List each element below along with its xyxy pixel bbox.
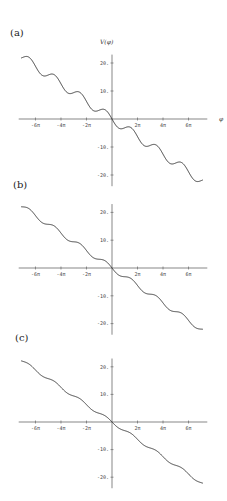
x-tick-label: -2π: [82, 425, 91, 431]
x-tick-label: 6π: [186, 122, 192, 128]
y-tick-label: 10.: [100, 88, 109, 94]
y-tick-label: -20.: [97, 320, 109, 326]
x-tick-label: -4π: [56, 425, 65, 431]
y-tick-label: 10.: [100, 391, 109, 397]
y-tick-label: -10.: [97, 446, 109, 452]
x-tick-label: 4π: [160, 271, 166, 277]
y-tick-label: -20.: [97, 474, 109, 480]
y-tick-label: 20.: [100, 364, 109, 370]
y-tick-label: -20.: [97, 172, 109, 178]
y-axis-title: V(φ): [100, 38, 114, 46]
x-tick-label: -6π: [31, 122, 40, 128]
x-tick-label: 2π: [134, 425, 140, 431]
y-tick-label: 10.: [100, 237, 109, 243]
x-tick-label: 6π: [186, 425, 192, 431]
x-tick-label: -6π: [31, 425, 40, 431]
x-tick-label: 6π: [186, 271, 192, 277]
y-tick-label: -10.: [97, 293, 109, 299]
x-tick-label: 2π: [134, 271, 140, 277]
x-axis-title: φ: [219, 115, 224, 123]
x-tick-label: -2π: [82, 271, 91, 277]
x-tick-label: -2π: [82, 122, 91, 128]
x-tick-label: 4π: [160, 425, 166, 431]
figure-plots: -6π-4π-2π2π4π6π20.10.-10.-20.V(φ)φ-6π-4π…: [0, 0, 227, 501]
x-tick-label: 4π: [160, 122, 166, 128]
y-tick-label: 20.: [100, 209, 109, 215]
x-tick-label: 2π: [134, 122, 140, 128]
x-tick-label: -6π: [31, 271, 40, 277]
y-tick-label: 20.: [100, 60, 109, 66]
x-tick-label: -4π: [56, 122, 65, 128]
x-tick-label: -4π: [56, 271, 65, 277]
y-tick-label: -10.: [97, 144, 109, 150]
